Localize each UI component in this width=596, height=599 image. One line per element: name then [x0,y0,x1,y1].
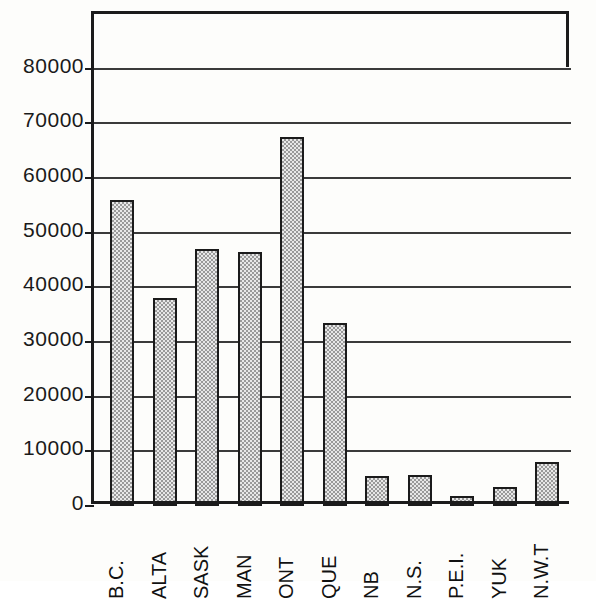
x-tick-label-wrapper: MAN [235,506,261,578]
bar [153,298,177,506]
gridline [94,68,571,70]
y-tick-mark [85,341,94,343]
plot-right-border [566,11,569,67]
x-tick-label-wrapper: ALTA [150,506,176,578]
y-tick-mark [85,122,94,124]
y-tick-label: 50000 [23,218,84,242]
gridline [94,122,571,124]
x-tick-label: ALTA [148,552,171,599]
x-tick-label-wrapper: P.E.I. [447,506,473,578]
x-tick-label: MAN [233,555,256,599]
x-tick-label: B.C. [105,560,128,599]
x-axis-line [91,501,569,504]
x-tick-label: N.W.T [530,543,553,599]
x-tick-label: QUE [318,556,341,599]
gridline [94,286,571,288]
y-tick-mark [85,396,94,398]
y-axis-tick-labels: 0100002000030000400005000060000700008000… [0,0,84,581]
x-tick-label-wrapper: SASK [192,506,218,578]
bar [535,462,559,506]
y-tick-label: 30000 [23,327,84,351]
x-tick-label-wrapper: B.C. [107,506,133,578]
bar [238,252,262,506]
y-tick-mark [85,177,94,179]
x-tick-label: P.E.I. [445,553,468,599]
x-tick-label: SASK [190,546,213,599]
y-tick-label: 80000 [23,54,84,78]
bar [280,137,304,506]
x-tick-label-wrapper: N.S. [405,506,431,578]
gridline [94,177,571,179]
bar [195,249,219,506]
bar [110,200,134,506]
y-tick-mark [85,232,94,234]
x-tick-label-wrapper: YUK [490,506,516,578]
y-tick-mark [85,505,94,507]
y-tick-mark [85,286,94,288]
y-tick-label: 0 [72,491,84,515]
x-tick-label-wrapper: NB [362,506,388,578]
plot-area [91,11,568,503]
x-tick-label-wrapper: QUE [320,506,346,578]
y-tick-label: 10000 [23,436,84,460]
x-tick-label: N.S. [403,560,426,599]
x-tick-label: NB [360,571,383,599]
x-tick-label: YUK [488,558,511,599]
x-tick-label-wrapper: N.W.T [532,506,558,578]
bar [323,323,347,506]
y-tick-label: 20000 [23,382,84,406]
x-tick-label: ONT [275,557,298,599]
y-tick-mark [85,450,94,452]
gridline [94,232,571,234]
y-tick-mark [85,68,94,70]
y-tick-label: 40000 [23,272,84,296]
y-tick-label: 70000 [23,108,84,132]
y-tick-label: 60000 [23,163,84,187]
x-tick-label-wrapper: ONT [277,506,303,578]
